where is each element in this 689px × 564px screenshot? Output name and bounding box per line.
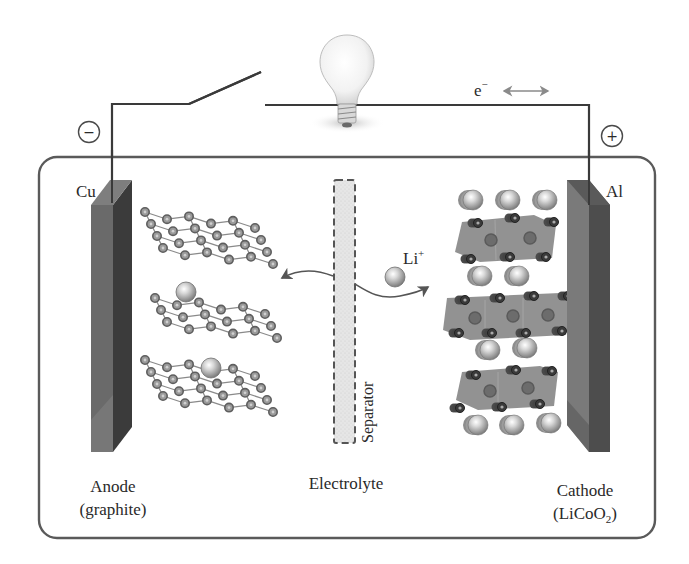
svg-text:+: + [606, 128, 618, 144]
separator-label: Separator [359, 381, 377, 443]
li-ion-icon [176, 282, 196, 302]
cathode-label: Cathode [557, 481, 614, 500]
light-bulb-icon [309, 35, 385, 133]
licoo2-cathode-structure [443, 190, 573, 435]
anode-material-label: (graphite) [79, 500, 146, 519]
svg-text:−: − [83, 124, 95, 140]
aluminum-label: Al [606, 182, 623, 201]
copper-label: Cu [76, 182, 96, 201]
li-ion-icon [201, 358, 221, 378]
electron-flow-indicator: e− [474, 78, 548, 100]
positive-terminal-icon: + [602, 126, 623, 147]
negative-terminal-icon: − [79, 122, 100, 143]
li-ion-icon [385, 267, 405, 287]
lithium-ion-battery-diagram: e− − + Cu Separator Li+ [0, 0, 689, 564]
separator [334, 180, 355, 443]
switch-icon [189, 72, 261, 104]
electron-label: e− [474, 78, 488, 100]
electrolyte-label: Electrolyte [309, 474, 384, 493]
anode-label: Anode [90, 477, 135, 496]
